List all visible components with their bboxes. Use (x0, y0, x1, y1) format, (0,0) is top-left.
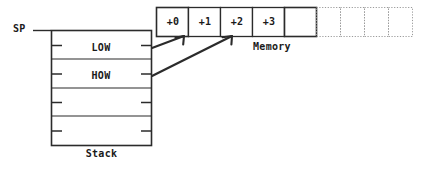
memory-cell-0-label: +0 (157, 17, 189, 27)
stack-caption: Stack (51, 149, 152, 159)
memory-cells-dotted (317, 8, 413, 37)
memory-cell-2-label: +2 (221, 17, 253, 27)
memory-cell-1-label: +1 (189, 17, 221, 27)
stack-pointer-label: SP (13, 24, 26, 34)
stack-row-0-label: LOW (51, 43, 151, 53)
memory-cell-3-label: +3 (253, 17, 285, 27)
stack-memory-diagram: SP LOW HOW Stack +0 +1 +2 +3 Memory (0, 0, 429, 175)
stack-row-1-label: HOW (51, 71, 151, 81)
memory-caption: Memory (253, 42, 291, 52)
connector-low-to-plus0 (152, 36, 184, 48)
connector-how-to-plus2 (152, 36, 232, 76)
